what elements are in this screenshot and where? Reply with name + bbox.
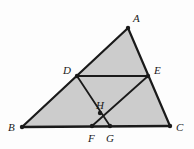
vertex-dot-f bbox=[90, 124, 94, 128]
vertex-dot-b bbox=[20, 125, 24, 129]
vertex-dot-h bbox=[98, 111, 102, 115]
figure-canvas bbox=[0, 0, 194, 149]
vertex-label-c: C bbox=[176, 122, 183, 133]
vertex-label-d: D bbox=[63, 65, 71, 76]
vertex-label-e: E bbox=[154, 65, 161, 76]
vertex-label-a: A bbox=[133, 13, 140, 24]
vertex-dot-c bbox=[168, 124, 172, 128]
vertex-dot-e bbox=[146, 74, 150, 78]
vertex-dot-a bbox=[126, 26, 130, 30]
vertex-dot-g bbox=[108, 124, 112, 128]
geometry-figure: ABCDEFGH bbox=[0, 0, 194, 149]
segment-BC bbox=[22, 126, 170, 127]
vertex-dot-d bbox=[75, 74, 79, 78]
vertex-label-g: G bbox=[106, 133, 114, 144]
vertex-label-b: B bbox=[8, 122, 15, 133]
vertex-label-f: F bbox=[88, 133, 95, 144]
vertex-label-h: H bbox=[96, 100, 104, 111]
